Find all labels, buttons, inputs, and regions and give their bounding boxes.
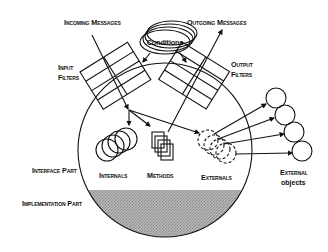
internals-label: Internals (99, 171, 128, 180)
incoming-message-arrow (92, 35, 128, 109)
externals-label: Externals (201, 173, 233, 182)
interface-part-label: Interface Part (32, 166, 77, 175)
implementation-part-label: Implementation Part (22, 199, 82, 208)
externals-to-object-4-arrow (236, 153, 292, 154)
methods-icon (152, 132, 173, 160)
input-filters-grid (80, 42, 151, 109)
input-filters-label-1: Input (58, 63, 73, 72)
external-object-3 (284, 122, 304, 142)
externals-to-object-1-arrow (214, 104, 266, 134)
external-objects-label-2: objects (281, 178, 306, 187)
external-objects (266, 88, 312, 161)
outgoing-messages-label: Outgoing Messages (187, 18, 247, 27)
internals-icon (96, 128, 137, 161)
external-object-4 (292, 141, 312, 161)
output-filters-label-1: Output (231, 60, 253, 69)
composition-filters-object-diagram: Incoming Messages Outgoing Messages Cond… (0, 0, 328, 252)
output-filters-label-2: Filters (231, 70, 253, 79)
externals-to-object-3-arrow (224, 134, 284, 144)
dispatch-to-externals-arrow (129, 110, 199, 133)
input-filters-label-2: Filters (58, 73, 80, 82)
external-objects-label-1: External (280, 168, 308, 177)
incoming-messages-label: Incoming Messages (64, 18, 121, 27)
conditions-label: Conditions (147, 38, 184, 47)
conditions-to-input-arrow (143, 53, 150, 62)
dispatch-to-methods-arrow (129, 110, 150, 126)
methods-label: Methods (147, 171, 174, 180)
implementation-part-region (70, 190, 270, 250)
output-filters-grid (159, 42, 230, 109)
externals-to-object-2-arrow (218, 118, 274, 139)
